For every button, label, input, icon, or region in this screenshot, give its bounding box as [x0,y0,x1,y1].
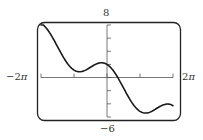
y-max-label: 8 [103,8,109,18]
pi-symbol: π [188,71,195,82]
y-min-label: −6 [100,124,115,134]
axes [41,25,173,117]
x-min-coefficient: −2 [6,71,21,82]
graph-plot [0,0,203,140]
x-min-label: −2π [6,72,27,82]
y-axis-ticks [107,25,111,117]
viewing-window-frame [38,23,181,121]
pi-symbol: π [21,71,28,82]
x-max-label: 2π [182,72,195,82]
x-axis-ticks [41,74,173,78]
